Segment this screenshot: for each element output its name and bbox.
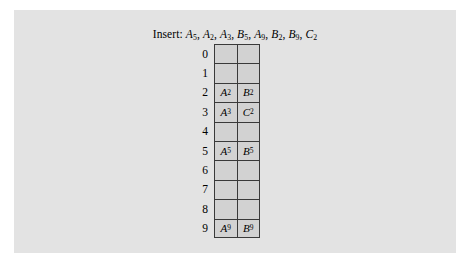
table-cell-empty <box>215 200 238 218</box>
table-row: 0 <box>192 44 282 63</box>
insert-item-subscript: 3 <box>227 33 231 42</box>
figure-panel: Insert: A5, A2, A3, B5, A9, B2, B9, C2 0… <box>14 10 456 253</box>
row-index-label: 7 <box>192 180 214 199</box>
insert-item: A3 <box>220 28 231 40</box>
table-cell-empty <box>215 45 238 63</box>
caption-insert-sequence: A5, A2, A3, B5, A9, B2, B9, C2 <box>183 28 317 40</box>
table-cell-empty <box>238 200 261 218</box>
row-cells: A3C2 <box>214 102 260 121</box>
row-index-label: 4 <box>192 122 214 141</box>
row-index-label: 2 <box>192 83 214 102</box>
insert-item-subscript: 5 <box>193 33 197 42</box>
insert-item-subscript: 5 <box>244 33 248 42</box>
row-index-label: 0 <box>192 44 214 63</box>
insert-item: B2 <box>271 28 282 40</box>
insert-item-subscript: 2 <box>313 33 317 42</box>
table-cell-empty <box>238 123 261 141</box>
insert-item: A2 <box>203 28 214 40</box>
table-cell-filled: C2 <box>238 103 261 121</box>
row-cells <box>214 63 260 82</box>
table-cell-empty <box>238 181 261 199</box>
table-cell-empty <box>215 161 238 179</box>
table-cell-filled: A9 <box>215 220 238 237</box>
row-cells: A2B2 <box>214 83 260 102</box>
table-cell-filled: B5 <box>238 142 261 160</box>
row-index-label: 1 <box>192 63 214 82</box>
insert-item: B5 <box>237 28 248 40</box>
insert-item-subscript: 2 <box>210 33 214 42</box>
table-row: 2A2B2 <box>192 83 282 102</box>
row-index-label: 9 <box>192 219 214 238</box>
table-cell-empty <box>215 181 238 199</box>
row-cells <box>214 199 260 218</box>
row-cells <box>214 160 260 179</box>
caption-prefix: Insert: <box>153 28 183 40</box>
row-cells: A9B9 <box>214 219 260 238</box>
table-cell-filled: A5 <box>215 142 238 160</box>
row-index-label: 5 <box>192 141 214 160</box>
table-row: 1 <box>192 63 282 82</box>
insert-item: A9 <box>254 28 265 40</box>
table-row: 8 <box>192 199 282 218</box>
row-index-label: 3 <box>192 102 214 121</box>
table-row: 6 <box>192 160 282 179</box>
table-cell-empty <box>238 64 261 82</box>
row-cells <box>214 122 260 141</box>
table-cell-filled: A2 <box>215 84 238 102</box>
table-cell-empty <box>215 64 238 82</box>
table-row: 3A3C2 <box>192 102 282 121</box>
row-cells <box>214 180 260 199</box>
row-index-label: 8 <box>192 199 214 218</box>
row-cells: A5B5 <box>214 141 260 160</box>
insert-item-subscript: 2 <box>278 33 282 42</box>
table-cell-empty <box>238 45 261 63</box>
figure-caption: Insert: A5, A2, A3, B5, A9, B2, B9, C2 <box>14 28 456 40</box>
table-cell-filled: A3 <box>215 103 238 121</box>
insert-item: B9 <box>288 28 299 40</box>
insert-item-subscript: 9 <box>261 33 265 42</box>
table-row: 4 <box>192 122 282 141</box>
table-row: 5A5B5 <box>192 141 282 160</box>
insert-item: C2 <box>305 28 317 40</box>
insert-item: A5 <box>186 28 197 40</box>
table-row: 9A9B9 <box>192 219 282 238</box>
table-cell-filled: B2 <box>238 84 261 102</box>
table-row: 7 <box>192 180 282 199</box>
hash-table: 012A2B23A3C245A5B56789A9B9 <box>192 44 282 240</box>
row-index-label: 6 <box>192 160 214 179</box>
table-cell-filled: B9 <box>238 220 261 237</box>
insert-item-subscript: 9 <box>296 33 300 42</box>
table-cell-empty <box>215 123 238 141</box>
row-cells <box>214 44 260 63</box>
table-cell-empty <box>238 161 261 179</box>
